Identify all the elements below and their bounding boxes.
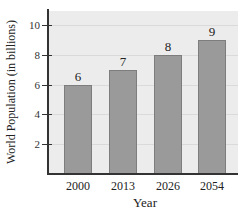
x-tick-label: 2000 [58,179,98,193]
x-axis [47,173,238,175]
x-tick-label: 2013 [103,179,143,193]
y-axis-title: World Population (in billions) [4,17,19,167]
y-tick-label: 2 [24,138,40,150]
y-tick-label: 6 [24,79,40,91]
y-tick-label: 8 [24,49,40,61]
x-tick-label: 2026 [148,179,188,193]
bar-value-label: 9 [198,25,226,39]
bar-value-label: 8 [154,40,182,54]
x-axis-title: Year [120,195,170,211]
y-tick [42,144,52,145]
bar-2026 [154,55,182,174]
bar-2013 [109,70,137,174]
y-tick [42,85,52,86]
bar-value-label: 7 [109,55,137,69]
y-tick [42,55,52,56]
y-tick [42,114,52,115]
x-tick-label: 2054 [192,179,232,193]
y-axis [47,9,49,175]
y-tick-label: 10 [24,19,40,31]
y-tick [42,25,52,26]
bar-2054 [198,40,226,174]
bar-2000 [64,85,92,174]
y-tick-label: 4 [24,108,40,120]
bar-value-label: 6 [64,70,92,84]
